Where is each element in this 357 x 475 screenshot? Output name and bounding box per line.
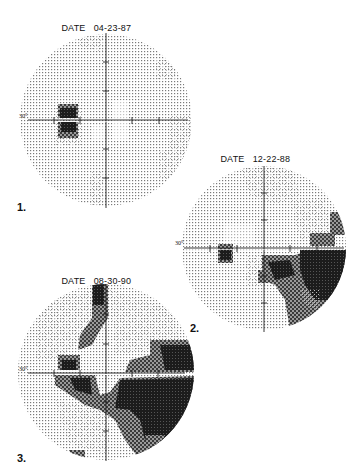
- panel-3-field: [18, 284, 195, 462]
- panel-1-field: [20, 32, 192, 208]
- visual-field-figure: [0, 0, 357, 475]
- panel-2-field: [182, 166, 346, 332]
